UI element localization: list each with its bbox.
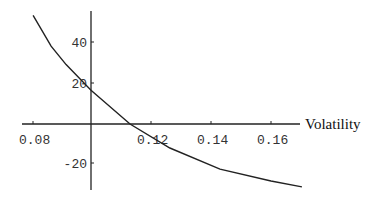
x-tick-label-0.12: 0.12	[137, 133, 168, 148]
x-tick-label-0.16: 0.16	[257, 133, 288, 148]
x-axis-label: Volatility	[305, 116, 361, 132]
y-tick-label-40: 40	[71, 36, 87, 51]
x-tick-label-0.08: 0.08	[19, 133, 50, 148]
x-tick-label-0.14: 0.14	[197, 133, 228, 148]
line-chart: 0.08 0.12 0.14 0.16 40 20 -20 Volatility	[0, 0, 380, 202]
y-tick-label-neg20: -20	[64, 157, 87, 172]
